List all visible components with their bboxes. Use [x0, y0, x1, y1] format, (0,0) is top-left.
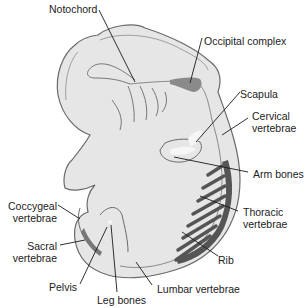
label-thoracic: Thoracic vertebrae: [243, 206, 287, 230]
label-scapula: Scapula: [240, 88, 278, 100]
label-leg-bones: Leg bones: [97, 294, 146, 306]
label-pelvis: Pelvis: [49, 281, 77, 293]
label-sacral: Sacral vertebrae: [5, 240, 57, 264]
label-notochord: Notochord: [49, 3, 97, 15]
leg-bones: [108, 220, 112, 224]
label-rib: Rib: [218, 254, 234, 266]
label-occipital-complex: Occipital complex: [204, 35, 286, 47]
embryo-skeleton-diagram: Notochord Occipital complex Scapula Cerv…: [0, 0, 307, 308]
label-cervical: Cervical vertebrae: [252, 110, 296, 134]
label-arm-bones: Arm bones: [253, 168, 304, 180]
label-lumbar-vertebrae: Lumbar vertebrae: [157, 283, 240, 295]
label-coccygeal: Coccygeal vertebrae: [5, 200, 57, 224]
